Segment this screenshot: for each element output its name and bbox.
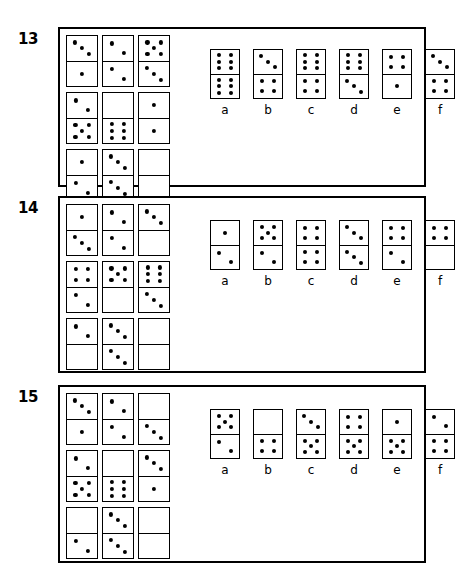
option-label: a [221, 275, 228, 287]
option-b[interactable]: b [253, 220, 283, 287]
option-f[interactable]: f [425, 49, 455, 116]
option-f[interactable]: f [425, 409, 455, 476]
pip [303, 260, 307, 264]
option-d[interactable]: d [339, 49, 369, 116]
pip [145, 292, 149, 296]
pip [346, 425, 350, 429]
domino-half-bottom [426, 75, 454, 99]
pip [87, 135, 91, 139]
grid-domino [102, 261, 134, 313]
option-f[interactable]: f [425, 220, 455, 287]
domino-matrix [66, 393, 170, 559]
option-e[interactable]: e [382, 409, 412, 476]
option-e[interactable]: e [382, 49, 412, 116]
grid-domino [66, 450, 98, 502]
option-a[interactable]: a [210, 49, 240, 116]
pip [110, 122, 114, 126]
pip [260, 89, 264, 93]
option-a[interactable]: a [210, 409, 240, 476]
pip [229, 84, 233, 88]
option-domino[interactable] [253, 220, 283, 270]
option-d[interactable]: d [339, 220, 369, 287]
pip [74, 324, 78, 328]
pip [145, 424, 149, 428]
pip [358, 415, 362, 419]
pip [315, 53, 319, 57]
domino-half-top [67, 36, 97, 62]
pip [87, 493, 91, 497]
pip [303, 226, 307, 230]
option-domino[interactable] [339, 49, 369, 99]
option-c[interactable]: c [296, 409, 326, 476]
option-domino[interactable] [339, 220, 369, 270]
option-domino[interactable] [210, 220, 240, 270]
pip [159, 304, 163, 308]
option-domino[interactable] [382, 220, 412, 270]
pip [123, 335, 127, 339]
option-domino[interactable] [253, 49, 283, 99]
pip [444, 89, 448, 93]
pip [152, 72, 156, 76]
pip [303, 60, 307, 64]
option-domino[interactable] [382, 49, 412, 99]
pip [159, 52, 163, 56]
pip [74, 456, 78, 460]
pip [358, 450, 362, 454]
domino-half-top [383, 221, 411, 246]
pip [217, 84, 221, 88]
grid-domino [66, 149, 98, 201]
pip [229, 53, 233, 57]
option-domino[interactable] [296, 220, 326, 270]
pip [315, 450, 319, 454]
option-domino[interactable] [339, 409, 369, 459]
pip [431, 54, 435, 58]
pip [229, 66, 233, 70]
option-c[interactable]: c [296, 49, 326, 116]
pip [158, 265, 162, 269]
pip [152, 46, 156, 50]
pip [273, 65, 277, 69]
pip [80, 46, 84, 50]
option-domino[interactable] [253, 409, 283, 459]
option-domino[interactable] [425, 220, 455, 270]
domino-half-top [139, 93, 169, 119]
domino-half-top [139, 508, 169, 534]
option-label: a [221, 104, 228, 116]
pip [229, 414, 233, 418]
pip [346, 53, 350, 57]
option-b[interactable]: b [253, 409, 283, 476]
option-domino[interactable] [210, 49, 240, 99]
pip [74, 181, 78, 185]
option-domino[interactable] [425, 409, 455, 459]
option-domino[interactable] [210, 409, 240, 459]
option-domino[interactable] [382, 409, 412, 459]
pip [260, 439, 264, 443]
domino-half-bottom [211, 75, 239, 99]
pip [152, 215, 156, 219]
pip [110, 399, 114, 403]
pip [229, 60, 233, 64]
option-domino[interactable] [425, 49, 455, 99]
domino-half-bottom [67, 119, 97, 144]
domino-half-top [67, 394, 97, 420]
pip [145, 40, 149, 44]
domino-half-top [297, 410, 325, 435]
domino-half-bottom [139, 62, 169, 87]
pip [272, 439, 276, 443]
option-c[interactable]: c [296, 220, 326, 287]
pip [158, 279, 162, 283]
pip [122, 136, 126, 140]
option-domino[interactable] [296, 49, 326, 99]
pip [217, 440, 221, 444]
pip [122, 220, 126, 224]
domino-half-top [103, 319, 133, 345]
grid-domino [66, 204, 98, 256]
pip [345, 250, 349, 254]
domino-half-bottom [67, 477, 97, 502]
option-e[interactable]: e [382, 220, 412, 287]
option-a[interactable]: a [210, 220, 240, 287]
option-domino[interactable] [296, 409, 326, 459]
option-b[interactable]: b [253, 49, 283, 116]
domino-half-bottom [103, 288, 133, 313]
option-d[interactable]: d [339, 409, 369, 476]
